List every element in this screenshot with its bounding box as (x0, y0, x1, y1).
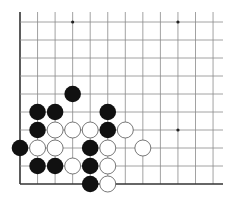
star-point-icon (176, 128, 179, 131)
white-stone (30, 140, 46, 156)
white-stone (135, 140, 151, 156)
white-stone (65, 158, 81, 174)
white-stone (100, 176, 116, 192)
white-stone (117, 122, 133, 138)
white-stone (47, 122, 63, 138)
black-stone (29, 158, 46, 175)
black-stone (29, 104, 46, 121)
white-stone (65, 122, 81, 138)
black-stone (47, 104, 64, 121)
black-stone (47, 158, 64, 175)
black-stone (12, 140, 29, 157)
black-stone (82, 140, 99, 157)
white-stone (100, 158, 116, 174)
white-stone (100, 140, 116, 156)
white-stone (82, 122, 98, 138)
white-stone (47, 140, 63, 156)
black-stone (99, 104, 116, 121)
black-stone (82, 176, 99, 193)
black-stone (29, 122, 46, 139)
stones (12, 86, 151, 193)
go-board (0, 0, 235, 208)
star-point-icon (176, 20, 179, 23)
black-stone (82, 158, 99, 175)
black-stone (99, 122, 116, 139)
star-point-icon (71, 20, 74, 23)
black-stone (64, 86, 81, 103)
grid-lines (20, 12, 223, 184)
